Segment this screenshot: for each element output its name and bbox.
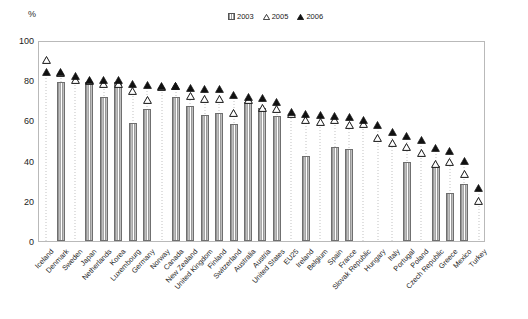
bar-2003 — [244, 102, 252, 241]
marker-2006 — [301, 110, 310, 118]
chart-legend: 2003 2005 2006 — [228, 12, 323, 21]
y-axis-tick: 40 — [4, 157, 34, 167]
chart-column — [284, 42, 298, 241]
marker-2006 — [42, 68, 51, 76]
legend-label-2003: 2003 — [237, 12, 254, 21]
chart-column — [111, 42, 125, 241]
marker-2005 — [417, 149, 426, 157]
chart-column — [270, 42, 284, 241]
hollow-triangle-icon — [263, 14, 270, 20]
marker-2006 — [474, 184, 483, 192]
x-axis-labels: IcelandDenmarkSwedenJapanNetherlandsKore… — [38, 245, 485, 319]
marker-2006 — [99, 76, 108, 84]
marker-stem — [161, 86, 162, 241]
marker-2006 — [215, 85, 224, 93]
marker-stem — [392, 132, 393, 241]
marker-2005 — [388, 139, 397, 147]
y-axis-unit-label: % — [28, 9, 36, 19]
chart-column — [299, 42, 313, 241]
marker-2005 — [445, 158, 454, 166]
chart-column — [385, 42, 399, 241]
marker-2006 — [171, 82, 180, 90]
bar-2003 — [345, 149, 353, 241]
hollow-square-icon — [228, 13, 235, 20]
chart-column — [39, 42, 53, 241]
marker-2006 — [128, 80, 137, 88]
marker-2005 — [258, 104, 267, 112]
marker-2006 — [229, 91, 238, 99]
bar-2003 — [446, 193, 454, 241]
bar-2003 — [143, 109, 151, 241]
chart-column — [255, 42, 269, 241]
chart-column — [183, 42, 197, 241]
marker-2006 — [345, 113, 354, 121]
chart-column — [472, 42, 486, 241]
marker-stem — [46, 72, 47, 241]
bar-2003 — [460, 184, 468, 241]
legend-label-2006: 2006 — [306, 12, 323, 21]
chart-column — [126, 42, 140, 241]
bar-2003 — [201, 115, 209, 241]
chart-column — [68, 42, 82, 241]
marker-stem — [291, 112, 292, 241]
marker-2006 — [330, 112, 339, 120]
marker-stem — [320, 115, 321, 241]
marker-2006 — [200, 85, 209, 93]
chart-column — [356, 42, 370, 241]
chart-column — [457, 42, 471, 241]
marker-2006 — [258, 94, 267, 102]
marker-stem — [478, 188, 479, 241]
marker-2006 — [373, 121, 382, 129]
marker-2006 — [186, 84, 195, 92]
bar-2003 — [129, 123, 137, 241]
chart-column — [154, 42, 168, 241]
y-axis-tick: 60 — [4, 116, 34, 126]
bar-2003 — [302, 156, 310, 241]
marker-2006 — [417, 136, 426, 144]
marker-2005 — [42, 56, 51, 64]
marker-2006 — [143, 81, 152, 89]
bar-2003 — [230, 124, 238, 241]
bar-2003 — [331, 147, 339, 241]
marker-2006 — [85, 76, 94, 84]
marker-2005 — [215, 95, 224, 103]
bar-2003 — [114, 82, 122, 241]
marker-2006 — [316, 111, 325, 119]
chart-column — [169, 42, 183, 241]
chart-column — [241, 42, 255, 241]
chart-column — [414, 42, 428, 241]
chart-column — [198, 42, 212, 241]
bar-2003 — [85, 82, 93, 241]
marker-stem — [363, 120, 364, 241]
marker-2006 — [431, 144, 440, 152]
bar-2003 — [57, 82, 65, 241]
chart-column — [97, 42, 111, 241]
chart-column — [342, 42, 356, 241]
marker-2005 — [316, 118, 325, 126]
chart-column — [140, 42, 154, 241]
marker-2005 — [186, 92, 195, 100]
bar-2003 — [172, 97, 180, 241]
marker-2006 — [287, 108, 296, 116]
chart-column — [443, 42, 457, 241]
filled-triangle-icon — [297, 14, 304, 20]
chart-column — [428, 42, 442, 241]
marker-2006 — [402, 132, 411, 140]
marker-2005 — [373, 134, 382, 142]
marker-2005 — [431, 160, 440, 168]
marker-2005 — [402, 143, 411, 151]
bar-2003 — [258, 108, 266, 241]
marker-2005 — [272, 105, 281, 113]
marker-stem — [377, 125, 378, 241]
chart-column — [212, 42, 226, 241]
bar-2003 — [273, 116, 281, 241]
y-axis-tick: 80 — [4, 76, 34, 86]
chart-column — [327, 42, 341, 241]
y-axis-tick: 20 — [4, 197, 34, 207]
marker-2006 — [56, 68, 65, 76]
chart-column — [371, 42, 385, 241]
marker-2005 — [143, 96, 152, 104]
marker-2005 — [474, 197, 483, 205]
marker-2006 — [157, 82, 166, 90]
marker-2006 — [388, 128, 397, 136]
